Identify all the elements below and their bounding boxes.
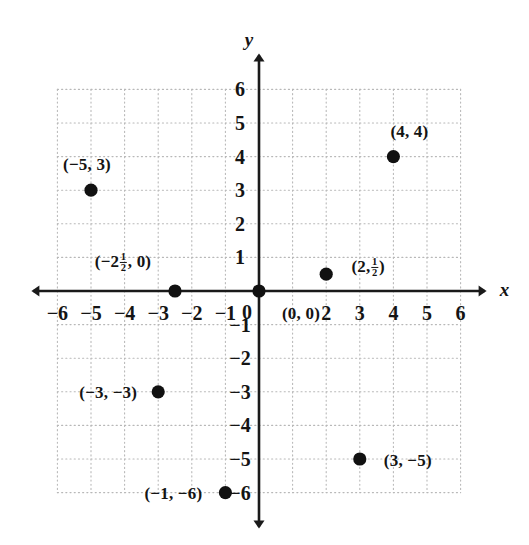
y-tick-label-neg1: −1: [229, 315, 250, 335]
plotted-point-origin-0-0: [252, 284, 265, 297]
point-label-2-half: (2,12): [352, 257, 385, 279]
x-tick-label-5: 5: [422, 303, 432, 323]
y-tick-label-5: 5: [235, 113, 245, 133]
point-label-text: (2,: [352, 257, 371, 276]
figure-background: [0, 0, 529, 545]
fraction: 12: [371, 257, 378, 279]
plotted-point-3-minus5: [353, 452, 366, 465]
fraction-numerator: 1: [120, 252, 127, 263]
point-label-minus2half-0: (−212, 0): [95, 252, 151, 274]
y-tick-label-6: 6: [235, 79, 245, 99]
point-label-4-4: (4, 4): [390, 122, 428, 139]
x-tick-label-neg3: −3: [147, 303, 168, 323]
point-label-origin-0-0: (0, 0): [282, 305, 320, 322]
y-tick-label-2: 2: [235, 214, 245, 234]
x-tick-label-6: 6: [456, 303, 466, 323]
x-axis-name: x: [500, 280, 510, 299]
fraction-numerator: 1: [371, 257, 378, 268]
plotted-point-2-half: [320, 268, 333, 281]
y-tick-label-1: 1: [235, 247, 245, 267]
y-axis-name: y: [245, 30, 253, 49]
y-tick-label-neg3: −3: [229, 382, 250, 402]
x-tick-label-2: 2: [321, 303, 331, 323]
plotted-point-4-4: [387, 150, 400, 163]
fraction-denominator: 2: [120, 262, 127, 274]
x-tick-label-neg2: −2: [181, 303, 202, 323]
y-tick-label-3: 3: [235, 180, 245, 200]
x-tick-label-4: 4: [388, 303, 398, 323]
point-label-text: (−2: [95, 252, 119, 271]
point-label-text-tail: ): [379, 257, 385, 276]
point-label-minus3-minus3: (−3, −3): [79, 383, 137, 400]
y-tick-label-neg6: −6: [229, 483, 250, 503]
x-tick-label-neg4: −4: [114, 303, 135, 323]
plotted-point-minus5-3: [84, 184, 97, 197]
point-label-3-minus5: (3, −5): [384, 452, 432, 469]
plotted-point-minus2half-0: [168, 284, 181, 297]
x-tick-label-3: 3: [355, 303, 365, 323]
y-tick-label-neg2: −2: [229, 348, 250, 368]
fraction-denominator: 2: [371, 267, 378, 279]
point-label-text-tail: , 0): [128, 252, 151, 271]
y-tick-label-neg4: −4: [229, 415, 250, 435]
y-tick-label-4: 4: [235, 147, 245, 167]
point-label-minus5-3: (−5, 3): [63, 156, 111, 173]
point-label-minus1-minus6: (−1, −6): [144, 484, 202, 501]
x-tick-label-neg5: −5: [80, 303, 101, 323]
fraction: 12: [120, 252, 127, 274]
y-tick-label-neg5: −5: [229, 449, 250, 469]
x-tick-label-neg6: −6: [47, 303, 68, 323]
plotted-point-minus3-minus3: [152, 385, 165, 398]
coordinate-plane-figure: [0, 0, 529, 545]
